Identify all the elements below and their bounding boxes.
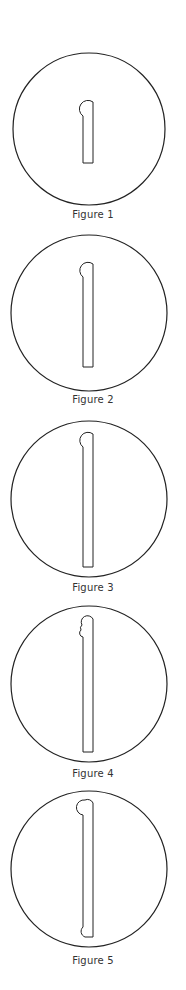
outer-circle: [11, 791, 167, 947]
figure-5-diagram: [0, 0, 186, 990]
figure-5: Figure 5: [0, 0, 186, 990]
head-and-foot-slot-shape: [76, 799, 93, 937]
figure-caption: Figure 5: [0, 955, 186, 966]
